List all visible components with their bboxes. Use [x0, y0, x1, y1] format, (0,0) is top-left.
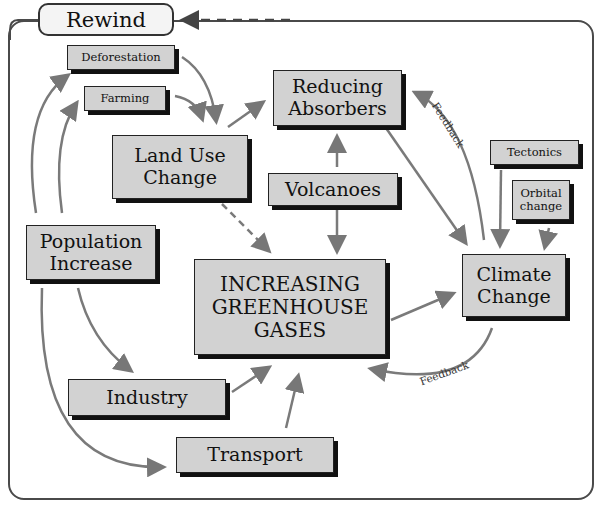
node-deforestation: Deforestation: [67, 45, 175, 70]
node-increasing-greenhouse-gases: INCREASING GREENHOUSE GASES: [194, 259, 386, 355]
node-transport: Transport: [176, 437, 334, 473]
node-tectonics: Tectonics: [490, 140, 579, 165]
rewind-button[interactable]: Rewind: [38, 3, 174, 36]
node-farming: Farming: [84, 86, 166, 111]
node-volcanoes: Volcanoes: [268, 173, 398, 206]
node-population-increase: Population Increase: [26, 225, 156, 280]
node-climate-change: Climate Change: [462, 254, 566, 317]
node-orbital-change: Orbital change: [512, 180, 570, 220]
node-reducing-absorbers: Reducing Absorbers: [273, 70, 402, 126]
node-industry: Industry: [68, 379, 226, 416]
node-land-use-change: Land Use Change: [112, 135, 248, 199]
